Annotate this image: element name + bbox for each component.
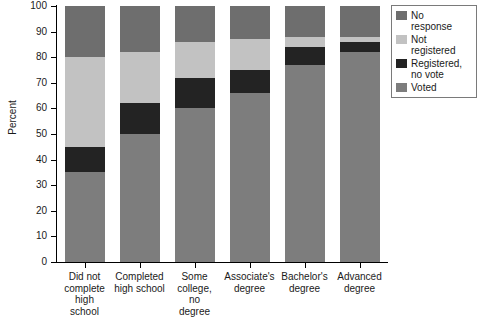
legend-item[interactable]: Registered,no vote bbox=[396, 58, 473, 80]
bar-segment[interactable] bbox=[65, 57, 105, 147]
x-tick-label: Somecollege,nodegree bbox=[167, 271, 222, 317]
x-tick bbox=[140, 263, 141, 268]
y-tick bbox=[51, 57, 56, 58]
bar-group[interactable] bbox=[340, 6, 380, 262]
y-tick bbox=[51, 160, 56, 161]
bar-group[interactable] bbox=[120, 6, 160, 262]
y-tick bbox=[51, 211, 56, 212]
bar-segment[interactable] bbox=[175, 108, 215, 262]
y-tick bbox=[51, 185, 56, 186]
y-tick-label: 90 bbox=[36, 27, 47, 37]
legend-label: Registered,no vote bbox=[411, 58, 462, 80]
bar-segment[interactable] bbox=[65, 172, 105, 262]
y-tick bbox=[51, 32, 56, 33]
x-tick-label: Bachelor'sdegree bbox=[277, 271, 332, 294]
legend-label: Voted bbox=[411, 82, 437, 93]
x-tick-label: Did notcompletehighschool bbox=[57, 271, 112, 317]
bar-segment[interactable] bbox=[230, 93, 270, 262]
bar-segment[interactable] bbox=[285, 37, 325, 47]
bar-segment[interactable] bbox=[340, 42, 380, 52]
x-axis-line bbox=[56, 262, 388, 263]
chart-legend: NoresponseNotregisteredRegistered,no vot… bbox=[391, 5, 477, 98]
bar-segment[interactable] bbox=[120, 6, 160, 52]
legend-item[interactable]: Voted bbox=[396, 82, 473, 93]
bar-segment[interactable] bbox=[65, 147, 105, 173]
y-tick-label: 0 bbox=[41, 257, 47, 267]
legend-swatch-icon bbox=[396, 83, 407, 92]
chart-figure: Percent 0102030405060708090100 Did notco… bbox=[0, 0, 483, 328]
bar-segment[interactable] bbox=[230, 39, 270, 70]
bar-segment[interactable] bbox=[230, 6, 270, 39]
y-tick-label: 10 bbox=[36, 231, 47, 241]
y-tick bbox=[51, 6, 56, 7]
y-tick-label: 80 bbox=[36, 52, 47, 62]
x-tick-label: Advanceddegree bbox=[332, 271, 387, 294]
bar-segment[interactable] bbox=[175, 78, 215, 109]
bar-segment[interactable] bbox=[120, 134, 160, 262]
y-tick-label: 40 bbox=[36, 155, 47, 165]
legend-swatch-icon bbox=[396, 59, 407, 68]
x-tick-label: Associate'sdegree bbox=[222, 271, 277, 294]
bar-segment[interactable] bbox=[285, 47, 325, 65]
bar-segment[interactable] bbox=[340, 6, 380, 37]
bar-segment[interactable] bbox=[340, 52, 380, 262]
y-tick-label: 100 bbox=[30, 1, 47, 11]
x-tick bbox=[195, 263, 196, 268]
y-tick-label: 20 bbox=[36, 206, 47, 216]
y-tick bbox=[51, 83, 56, 84]
bar-segment[interactable] bbox=[120, 52, 160, 103]
plot-area bbox=[57, 6, 387, 262]
y-tick-label: 30 bbox=[36, 180, 47, 190]
y-tick bbox=[51, 236, 56, 237]
bar-group[interactable] bbox=[175, 6, 215, 262]
legend-item[interactable]: Notregistered bbox=[396, 34, 473, 56]
bar-segment[interactable] bbox=[175, 6, 215, 42]
bar-group[interactable] bbox=[65, 6, 105, 262]
stray-mark: ∕ bbox=[372, 271, 374, 281]
bar-segment[interactable] bbox=[285, 6, 325, 37]
x-tick bbox=[305, 263, 306, 268]
x-tick bbox=[85, 263, 86, 268]
bar-segment[interactable] bbox=[175, 42, 215, 78]
legend-label: Notregistered bbox=[411, 34, 455, 56]
y-tick-label: 50 bbox=[36, 129, 47, 139]
legend-swatch-icon bbox=[396, 35, 407, 44]
bar-segment[interactable] bbox=[65, 6, 105, 57]
y-tick-label: 60 bbox=[36, 103, 47, 113]
x-tick-label: Completedhigh school bbox=[112, 271, 167, 294]
bar-segment[interactable] bbox=[340, 37, 380, 42]
bar-segment[interactable] bbox=[120, 103, 160, 134]
bar-group[interactable] bbox=[230, 6, 270, 262]
bar-group[interactable] bbox=[285, 6, 325, 262]
legend-swatch-icon bbox=[396, 11, 407, 20]
legend-label: Noresponse bbox=[411, 10, 452, 32]
x-tick bbox=[250, 263, 251, 268]
x-tick bbox=[360, 263, 361, 268]
bar-segment[interactable] bbox=[285, 65, 325, 262]
y-axis-title: Percent bbox=[7, 78, 18, 158]
y-tick bbox=[51, 134, 56, 135]
legend-item[interactable]: Noresponse bbox=[396, 10, 473, 32]
y-tick bbox=[51, 108, 56, 109]
bar-segment[interactable] bbox=[230, 70, 270, 93]
y-tick-label: 70 bbox=[36, 78, 47, 88]
